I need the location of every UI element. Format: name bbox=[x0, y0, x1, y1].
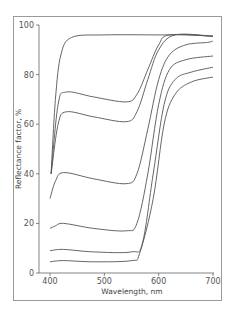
x-axis-title: Wavelength, nm bbox=[101, 287, 162, 296]
y-tick-label: 80 bbox=[24, 71, 34, 80]
x-tick-label: 400 bbox=[42, 277, 57, 286]
data-curves bbox=[50, 34, 213, 262]
y-tick-label: 40 bbox=[24, 170, 34, 179]
x-ticks: 400500600700 bbox=[42, 273, 220, 286]
y-tick-label: 60 bbox=[24, 120, 34, 129]
reflectance-curve bbox=[50, 77, 213, 262]
reflectance-curve bbox=[50, 56, 213, 231]
x-tick-label: 700 bbox=[205, 277, 220, 286]
y-tick-label: 100 bbox=[19, 21, 34, 30]
reflectance-curve bbox=[51, 35, 213, 174]
y-tick-label: 0 bbox=[29, 269, 34, 278]
y-tick-label: 20 bbox=[24, 219, 34, 228]
reflectance-curve bbox=[51, 34, 213, 174]
axes bbox=[39, 25, 214, 273]
y-axis-title: Reflectance factor, % bbox=[14, 109, 23, 189]
reflectance-chart: 020406080100 400500600700 Wavelength, nm… bbox=[0, 0, 237, 316]
x-tick-label: 600 bbox=[151, 277, 166, 286]
x-tick-label: 500 bbox=[97, 277, 112, 286]
reflectance-curve bbox=[51, 34, 213, 173]
